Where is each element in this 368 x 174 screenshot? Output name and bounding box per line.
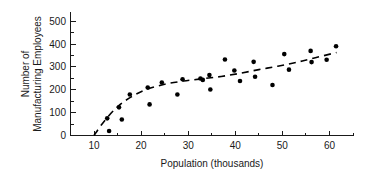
data-point (324, 58, 329, 63)
x-tick-label: 40 (230, 140, 242, 151)
data-points (105, 44, 338, 133)
data-point (309, 60, 314, 65)
data-point (253, 74, 258, 79)
y-tick-label: 200 (49, 84, 66, 95)
data-point (232, 68, 237, 73)
data-point (201, 78, 206, 83)
y-tick-label: 400 (49, 39, 66, 50)
data-point (120, 117, 125, 122)
y-tick-label: 300 (49, 61, 66, 72)
data-point (334, 44, 339, 49)
data-point (160, 80, 165, 85)
data-point (175, 92, 180, 97)
data-point (208, 87, 213, 92)
data-point (308, 49, 313, 54)
data-point (282, 52, 287, 57)
y-axis-title-line-2: Manufacturing Employees (32, 16, 43, 132)
data-point (145, 85, 150, 90)
x-tick-label: 50 (277, 140, 289, 151)
x-tick-label: 20 (136, 140, 148, 151)
data-point (207, 73, 212, 78)
data-point (147, 102, 152, 107)
x-tick-label: 10 (88, 140, 100, 151)
y-tick-label: 500 (49, 16, 66, 27)
y-tick-label: 100 (49, 107, 66, 118)
data-point (238, 79, 243, 84)
scatter-plot-figure: 0100200300400500 102030405060 Population… (0, 0, 368, 174)
y-axis: 0100200300400500 (49, 16, 75, 141)
data-point (117, 105, 122, 110)
y-tick-label: 0 (60, 130, 66, 141)
data-point (251, 60, 256, 65)
x-axis: 102030405060 (71, 131, 354, 152)
y-axis-title-line-1: Number of (20, 50, 31, 97)
data-point (287, 67, 292, 72)
x-axis-title: Population (thousands) (161, 158, 264, 169)
data-point (180, 77, 185, 82)
chart-canvas: 0100200300400500 102030405060 Population… (0, 0, 368, 174)
data-point (105, 116, 110, 121)
data-point (223, 57, 228, 62)
data-point (107, 129, 112, 134)
x-tick-label: 30 (183, 140, 195, 151)
data-point (270, 83, 275, 88)
x-tick-label: 60 (324, 140, 336, 151)
data-point (128, 92, 133, 97)
